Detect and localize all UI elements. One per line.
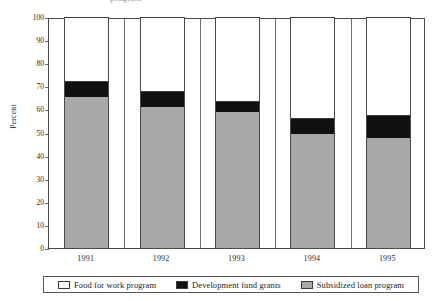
cell-divider (351, 19, 352, 248)
legend-label-0: Food for work program (74, 280, 156, 290)
bar-1991[interactable] (64, 17, 109, 248)
bar-1993[interactable] (215, 17, 260, 248)
bar-segment-1993-development-fund-grants[interactable] (216, 101, 259, 111)
legend-label-1: Development fund grants (192, 280, 281, 290)
bar-segment-1992-subsidized-loan-program[interactable] (141, 107, 184, 248)
y-axis-tick-labels: 1009080706050403020100 (18, 0, 44, 301)
x-tick-1994: 1994 (287, 254, 337, 263)
legend-swatch-icon-0 (58, 281, 70, 289)
bar-segment-1992-food-for-work-program[interactable] (141, 17, 184, 91)
y-tick-90: 90 (18, 37, 44, 45)
chart-figure: program Percent 1009080706050403020100 1… (0, 0, 438, 301)
clipped-title-strip: program (0, 0, 438, 7)
bar-segment-1991-subsidized-loan-program[interactable] (65, 97, 108, 248)
bar-segment-1994-subsidized-loan-program[interactable] (291, 134, 334, 248)
legend-item-1[interactable]: Development fund grants (176, 280, 281, 290)
cell-divider (124, 19, 125, 248)
bar-segment-1995-food-for-work-program[interactable] (367, 17, 410, 115)
bar-segment-1991-food-for-work-program[interactable] (65, 17, 108, 81)
y-axis-label: Percent (9, 87, 18, 147)
cell-divider (200, 19, 201, 248)
x-tick-1992: 1992 (136, 254, 186, 263)
legend-swatch-icon-1 (176, 281, 188, 289)
legend-item-0[interactable]: Food for work program (58, 280, 156, 290)
y-tick-10: 10 (18, 222, 44, 230)
legend-label-2: Subsidized loan program (317, 280, 404, 290)
bar-segment-1992-development-fund-grants[interactable] (141, 91, 184, 107)
bar-segment-1991-development-fund-grants[interactable] (65, 81, 108, 97)
x-tick-1991: 1991 (61, 254, 111, 263)
legend-swatch-icon-2 (301, 281, 313, 289)
x-tick-1993: 1993 (212, 254, 262, 263)
plot-area (48, 18, 425, 249)
y-tick-40: 40 (18, 153, 44, 161)
legend-item-2[interactable]: Subsidized loan program (301, 280, 404, 290)
bar-segment-1993-subsidized-loan-program[interactable] (216, 112, 259, 248)
bar-segment-1994-food-for-work-program[interactable] (291, 17, 334, 117)
x-tick-1995: 1995 (362, 254, 412, 263)
bar-1994[interactable] (290, 17, 335, 248)
bar-segment-1993-food-for-work-program[interactable] (216, 17, 259, 101)
y-tick-50: 50 (18, 130, 44, 138)
bar-1992[interactable] (140, 17, 185, 248)
y-tick-0: 0 (18, 245, 44, 253)
bar-1995[interactable] (366, 17, 411, 248)
bar-segment-1995-subsidized-loan-program[interactable] (367, 138, 410, 248)
y-tick-20: 20 (18, 199, 44, 207)
y-tickmark-0 (45, 249, 49, 250)
y-tick-60: 60 (18, 106, 44, 114)
y-tick-80: 80 (18, 60, 44, 68)
bar-segment-1995-development-fund-grants[interactable] (367, 115, 410, 138)
cell-divider (275, 19, 276, 248)
chart-legend: Food for work programDevelopment fund gr… (43, 276, 419, 293)
y-tick-100: 100 (18, 14, 44, 22)
y-tick-70: 70 (18, 83, 44, 91)
bar-segment-1994-development-fund-grants[interactable] (291, 118, 334, 134)
y-tick-30: 30 (18, 176, 44, 184)
chart-title: program (110, 0, 142, 3)
x-axis-tick-labels: 19911992199319941995 (48, 254, 425, 268)
